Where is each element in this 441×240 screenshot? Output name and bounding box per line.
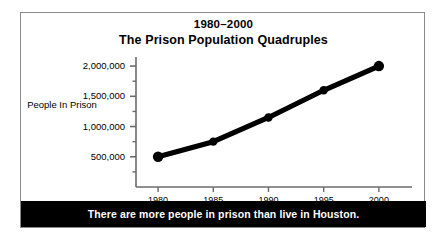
x-axis-ticks	[158, 187, 379, 192]
figure-frame: 1980–2000 The Prison Population Quadrupl…	[20, 12, 425, 228]
data-point-marker	[319, 86, 327, 94]
data-point-marker	[153, 152, 163, 162]
caption-text: There are more people in prison than liv…	[88, 208, 359, 220]
data-markers	[153, 61, 384, 162]
y-tick-label: 2,000,000	[51, 61, 125, 71]
y-tick-label: 500,000	[51, 152, 125, 162]
y-tick-label: 1,000,000	[51, 122, 125, 132]
caption-bar: There are more people in prison than liv…	[21, 201, 426, 227]
y-tick-label: 1,500,000	[51, 91, 125, 101]
data-point-marker	[264, 113, 272, 121]
infographic-figure: 1980–2000 The Prison Population Quadrupl…	[0, 0, 441, 240]
data-point-marker	[374, 61, 384, 71]
y-axis-ticks	[130, 66, 136, 172]
chart-title: The Prison Population Quadruples	[21, 32, 426, 48]
data-line	[158, 66, 379, 157]
title-block: 1980–2000 The Prison Population Quadrupl…	[21, 17, 426, 48]
data-point-marker	[209, 137, 217, 145]
chart-subtitle-years: 1980–2000	[21, 17, 426, 32]
